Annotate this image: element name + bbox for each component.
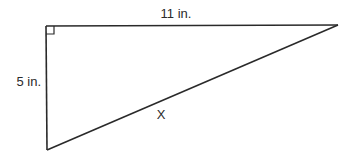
- top-side-label: 11 in.: [161, 6, 192, 21]
- hypotenuse-line: [47, 25, 338, 150]
- triangle: [46, 25, 338, 150]
- right-triangle-diagram: 11 in. 5 in. X: [0, 0, 352, 160]
- left-side-label: 5 in.: [16, 74, 41, 89]
- right-angle-marker: [46, 26, 54, 34]
- top-side-line: [46, 25, 338, 26]
- hypotenuse-label: X: [157, 107, 166, 122]
- left-side-line: [46, 26, 47, 150]
